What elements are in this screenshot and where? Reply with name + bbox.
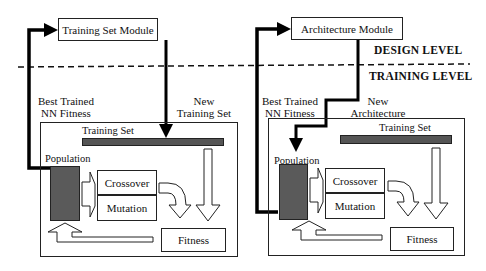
right-feedback-label-line1: Best Trained [258, 95, 322, 107]
left-feedback-arrowhead [44, 23, 58, 37]
level-divider [18, 64, 470, 67]
architecture-module-label: Architecture Module [301, 23, 393, 35]
design-level-label: DESIGN LEVEL [374, 44, 462, 56]
left-feedback-label-line1: Best Trained [34, 95, 98, 107]
left-output-label-line2: Training Set [172, 107, 236, 119]
left-feedback-label: Best Trained NN Fitness [34, 95, 98, 119]
left-population-block [50, 166, 80, 221]
right-mutation-label: Mutation [335, 200, 375, 212]
left-crossover-box: Crossover [97, 170, 157, 195]
left-crossover-label: Crossover [105, 177, 150, 189]
right-training-set-label: Training Set [379, 122, 431, 134]
right-mutation-box: Mutation [325, 193, 385, 219]
left-mutation-box: Mutation [97, 195, 157, 221]
left-training-set-bar [82, 138, 224, 146]
left-feedback-label-line2: NN Fitness [34, 107, 98, 119]
left-fitness-box: Fitness [161, 228, 226, 252]
left-mutation-label: Mutation [107, 202, 147, 214]
architecture-module-box: Architecture Module [291, 17, 403, 40]
training-set-module-label: Training Set Module [62, 24, 153, 36]
right-output-label: New Architecture [346, 95, 410, 119]
right-feedback-arrowhead [277, 22, 291, 36]
right-fitness-label: Fitness [406, 233, 437, 245]
right-fitness-box: Fitness [390, 227, 454, 251]
left-training-set-label: Training Set [82, 125, 134, 137]
training-set-module-box: Training Set Module [58, 18, 158, 41]
left-fitness-label: Fitness [178, 234, 209, 246]
left-output-label: New Training Set [172, 95, 236, 119]
right-output-label-line1: New [346, 95, 410, 107]
right-feedback-label: Best Trained NN Fitness [258, 95, 322, 119]
left-output-label-line1: New [172, 95, 236, 107]
training-level-label: TRAINING LEVEL [369, 70, 472, 82]
left-population-label: Population [45, 153, 91, 165]
right-crossover-label: Crossover [333, 175, 378, 187]
right-population-block [279, 164, 308, 220]
right-training-set-bar [340, 135, 452, 144]
right-crossover-box: Crossover [325, 168, 385, 193]
